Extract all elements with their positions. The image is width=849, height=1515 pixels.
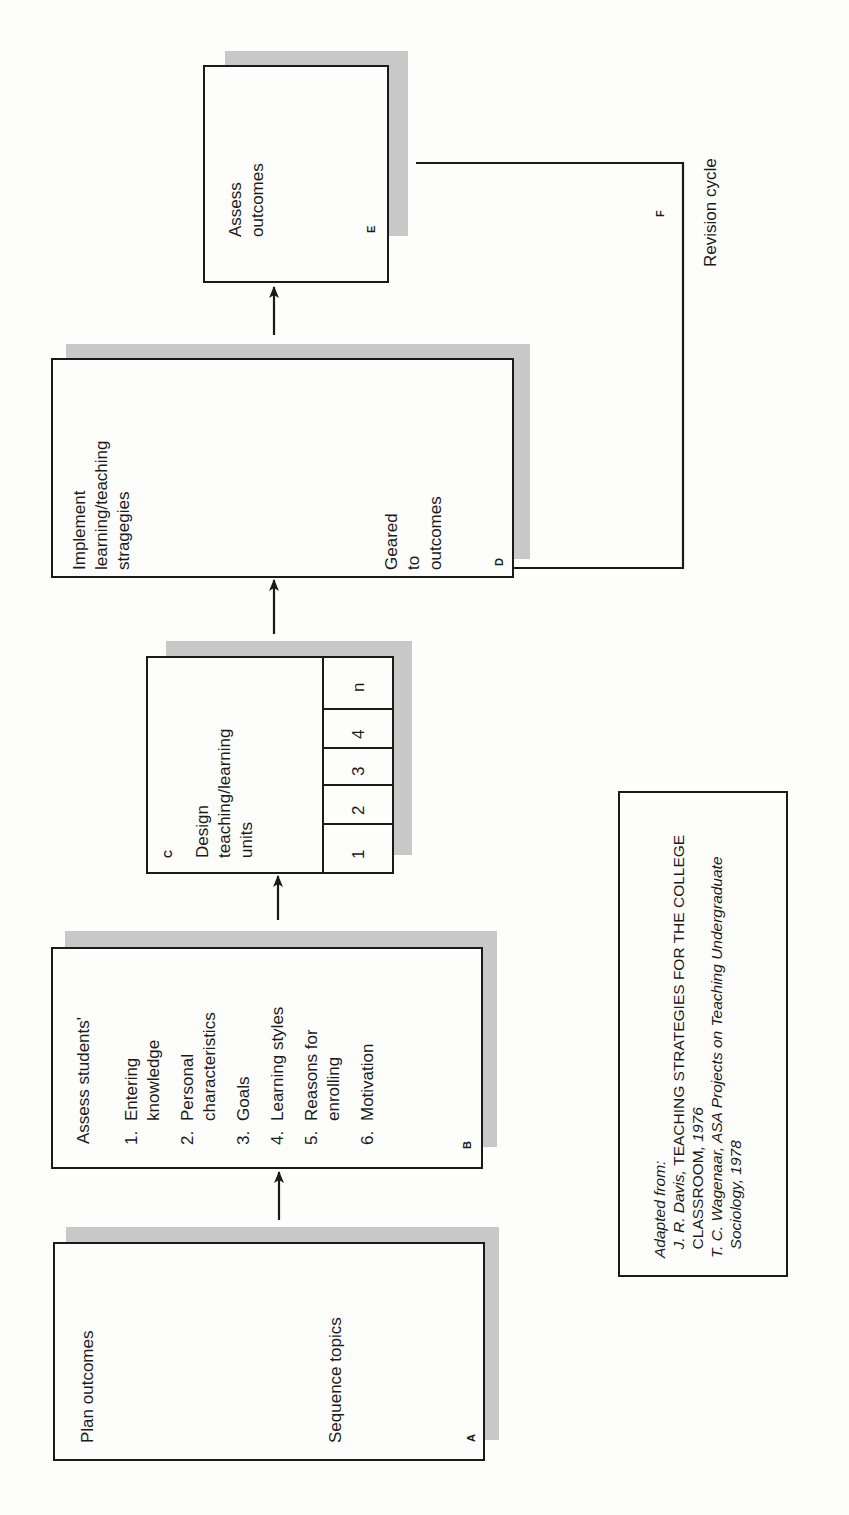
box-b-assess-students: Assess students' 1.Enteringknowledge 2.P…: [51, 947, 483, 1169]
citation-text: Adapted from: J. R. Davis, TEACHING STRA…: [650, 835, 745, 1258]
citation-box: Adapted from: J. R. Davis, TEACHING STRA…: [618, 791, 788, 1277]
list-item: 3.Goals: [233, 965, 255, 1145]
list-item: 4.Learning styles: [267, 965, 289, 1145]
box-e-assess-outcomes: Assess outcomes E: [203, 65, 389, 283]
units-strip: n 4 3 2 1: [322, 656, 392, 874]
design-units-title: Design teaching/learning units: [192, 729, 258, 858]
list-item: 1.Enteringknowledge: [121, 965, 165, 1145]
revision-label-f: F: [654, 210, 666, 217]
unit-cell-3: 3: [324, 747, 392, 784]
revision-cycle-text: Revision cycle: [700, 158, 722, 267]
assess-students-title: Assess students': [73, 1017, 95, 1144]
box-d-label: D: [493, 558, 505, 566]
geared-to-outcomes-text: Geared to outcomes: [381, 496, 447, 570]
box-e-label: E: [365, 226, 377, 233]
box-a-label: A: [465, 1434, 477, 1442]
assess-students-list: 1.Enteringknowledge 2.Personalcharacteri…: [121, 965, 379, 1145]
plan-outcomes-text: Plan outcomes: [77, 1331, 99, 1443]
unit-cell-1: 1: [324, 823, 392, 874]
list-item: 5.Reasons forenrolling: [301, 965, 345, 1145]
box-a-plan-outcomes: Plan outcomes Sequence topics A: [53, 1242, 485, 1461]
unit-cell-n: n: [324, 656, 392, 708]
implement-strategies-text: Implement learning/teaching stragegies: [69, 441, 135, 570]
box-d-implement-strategies: Implement learning/teaching stragegies G…: [51, 358, 514, 578]
unit-cell-2: 2: [324, 784, 392, 823]
list-item: 6.Motivation: [357, 965, 379, 1145]
box-c-design-units: C Design teaching/learning units n 4 3 2…: [146, 656, 394, 874]
list-item: 2.Personalcharacteristics: [177, 965, 221, 1145]
box-b-label: B: [461, 1141, 473, 1149]
unit-cell-4: 4: [324, 708, 392, 747]
box-c-label: C: [162, 850, 174, 858]
assess-outcomes-text: Assess outcomes: [225, 163, 269, 237]
sequence-topics-text: Sequence topics: [325, 1317, 347, 1443]
